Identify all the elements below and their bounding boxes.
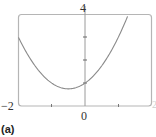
x-zero-label: 0 <box>81 110 87 122</box>
x-max-label: 2 <box>152 100 156 110</box>
x-min-label: −2 <box>1 100 14 112</box>
y-max-label: 4 <box>80 2 86 14</box>
panel-label: (a) <box>1 124 14 135</box>
parabola-curve <box>19 16 128 88</box>
plot-area <box>0 0 156 137</box>
